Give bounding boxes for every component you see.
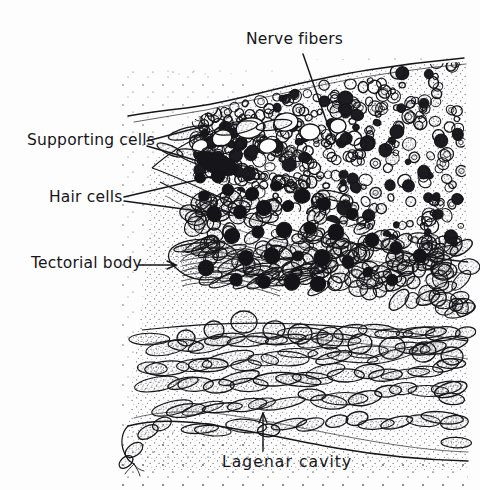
label-hair-cells: Hair cells [49,190,123,206]
illustration [0,0,480,490]
label-nerve-fibers: Nerve fibers [246,32,343,48]
figure-canvas: Nerve fibers Supporting cells Hair cells… [0,0,480,490]
label-tectorial-body: Tectorial body [31,256,142,272]
label-lagenar-cavity: Lagenar cavity [222,455,352,471]
label-supporting-cells: Supporting cells [27,133,155,149]
